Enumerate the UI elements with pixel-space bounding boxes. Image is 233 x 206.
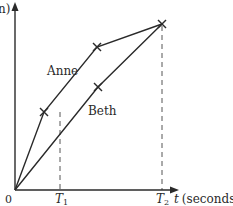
t2-label: T2 <box>156 192 169 206</box>
y-axis-label: n) <box>0 2 10 16</box>
beth-label: Beth <box>88 104 117 118</box>
distance-time-diagram: n) Anne Beth 0 T1 T2 t(seconds) <box>0 0 233 206</box>
x-axis-label: t(seconds) <box>174 192 233 206</box>
origin-label: 0 <box>5 193 12 206</box>
t1-label: T1 <box>55 192 68 206</box>
y-axis-arrow-icon <box>12 2 19 11</box>
anne-label: Anne <box>46 64 78 78</box>
